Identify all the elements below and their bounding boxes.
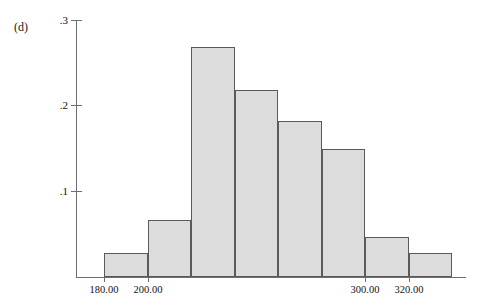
bar-bin-2 [148, 220, 191, 277]
bar-bin-3 [191, 47, 235, 277]
x-tick-label-180: 180.00 [90, 284, 119, 295]
histogram-figure: (d) .3 .2 .1 180.00 200.00 3 [0, 0, 493, 305]
y-tick-label-2: .2 [28, 99, 68, 111]
bar-bin-1 [104, 253, 148, 277]
x-tick-label-200: 200.00 [134, 284, 163, 295]
bar-bin-5 [278, 121, 322, 277]
x-tick-mark-180 [104, 277, 105, 282]
bar-bin-4 [235, 90, 278, 277]
y-tick-mark-2 [71, 105, 82, 106]
y-tick-mark-3 [71, 20, 82, 21]
x-tick-mark-320 [409, 277, 410, 282]
x-tick-mark-200 [148, 277, 149, 282]
y-tick-label-1: .1 [28, 185, 68, 197]
bar-bin-8 [409, 253, 452, 277]
y-axis-line [76, 20, 77, 278]
x-tick-label-300: 300.00 [351, 284, 380, 295]
y-tick-label-3: .3 [28, 14, 68, 26]
x-axis-line [76, 277, 466, 278]
plot-area: .3 .2 .1 180.00 200.00 300.00 320.00 [0, 0, 493, 305]
x-tick-label-320: 320.00 [395, 284, 424, 295]
bar-bin-7 [365, 237, 409, 277]
x-tick-mark-300 [365, 277, 366, 282]
bar-bin-6 [322, 149, 365, 277]
y-tick-mark-1 [71, 191, 82, 192]
